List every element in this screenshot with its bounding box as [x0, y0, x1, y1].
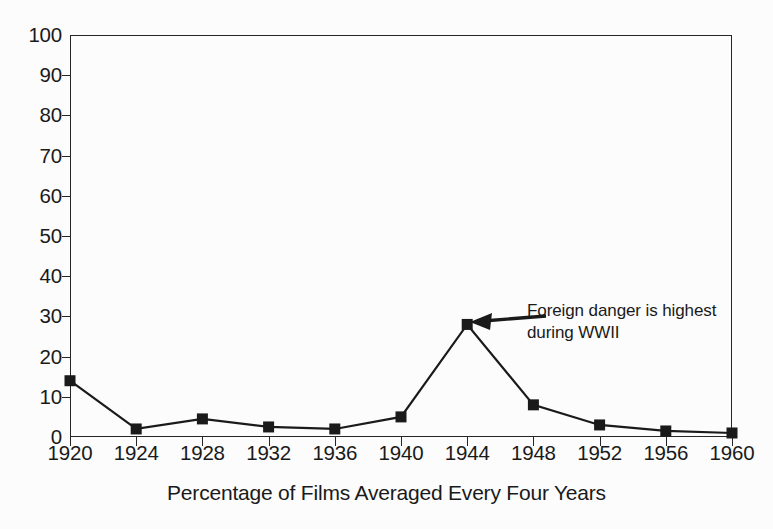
- data-point-1960: [727, 427, 738, 438]
- data-point-1928: [197, 413, 208, 424]
- data-point-1924: [131, 423, 142, 434]
- annotation-label: Foreign danger is highest during WWII: [527, 300, 732, 345]
- chart-figure: 0102030405060708090100 19201924192819321…: [0, 0, 773, 529]
- data-point-1956: [660, 425, 671, 436]
- data-point-1940: [396, 411, 407, 422]
- data-point-1944: [462, 319, 473, 330]
- data-point-1948: [528, 399, 539, 410]
- annotation-line-1: Foreign danger is highest: [527, 300, 732, 322]
- x-axis-title: Percentage of Films Averaged Every Four …: [0, 481, 773, 505]
- annotation-line-2: during WWII: [527, 322, 732, 344]
- data-point-1952: [594, 419, 605, 430]
- data-point-1936: [329, 423, 340, 434]
- data-point-1920: [65, 375, 76, 386]
- data-series-layer: [0, 0, 773, 529]
- data-point-1932: [263, 421, 274, 432]
